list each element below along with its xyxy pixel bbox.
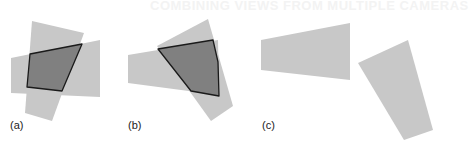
panel-c [261, 23, 433, 140]
panel-a-label: (a) [10, 119, 23, 131]
panel-a [11, 21, 100, 121]
panel-c-horizontal-view [261, 23, 350, 80]
panel-b [128, 19, 233, 121]
panel-c-vertical-view [358, 40, 433, 140]
panel-b-label: (b) [128, 119, 141, 131]
panel-c-label: (c) [262, 119, 275, 131]
